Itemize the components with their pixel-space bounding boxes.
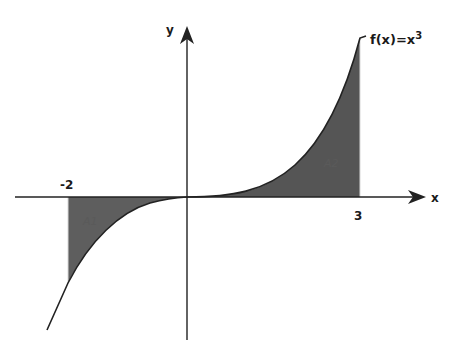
region-a1-fill xyxy=(68,197,187,283)
function-label-main: f(x)=x xyxy=(370,32,416,47)
tick-label-neg2: -2 xyxy=(60,178,73,192)
tick-label-3: 3 xyxy=(354,209,362,223)
plot-svg: y x -2 3 f(x)=x3 A1 A2 xyxy=(0,0,452,356)
region-a2-fill xyxy=(187,38,360,197)
region-a1-label: A1 xyxy=(82,215,98,228)
region-a2-label: A2 xyxy=(323,157,339,170)
function-label: f(x)=x3 xyxy=(370,30,422,47)
y-axis-label: y xyxy=(166,23,174,37)
x-axis-label: x xyxy=(431,191,439,205)
function-label-exponent: 3 xyxy=(415,30,422,41)
cubic-area-diagram: y x -2 3 f(x)=x3 A1 A2 xyxy=(0,0,452,356)
